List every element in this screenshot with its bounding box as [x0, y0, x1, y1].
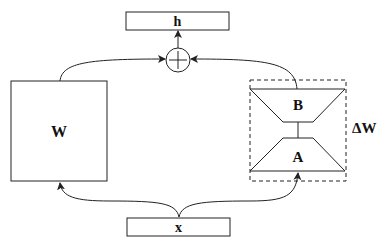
input-x-box: x [127, 218, 230, 236]
lora-diagram: h W ΔW B A x [0, 0, 384, 242]
delta-w-label: ΔW [352, 120, 376, 136]
b-to-sum-arrow [191, 59, 297, 89]
lora-b-trapezoid: B [250, 89, 345, 122]
lora-a-trapezoid: A [250, 138, 345, 171]
output-h-box: h [126, 12, 229, 30]
plus-circle-icon [166, 48, 190, 72]
input-x-label: x [175, 220, 182, 235]
output-h-label: h [174, 14, 182, 29]
w-label: W [51, 123, 67, 140]
w-to-sum-arrow [60, 59, 165, 81]
x-to-a-arrow [179, 173, 298, 217]
b-label: B [293, 97, 303, 113]
a-label: A [293, 149, 304, 165]
pretrained-weight-box: W [11, 81, 107, 181]
x-to-w-arrow [60, 183, 179, 217]
